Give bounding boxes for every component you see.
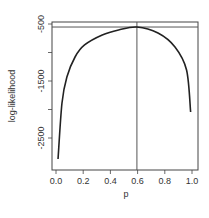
x-tick-label: 0.4 <box>104 176 117 186</box>
loglik-curve <box>58 27 191 159</box>
y-axis: -500-1500-2500 <box>36 15 52 150</box>
y-tick-label: -1500 <box>36 69 46 92</box>
x-tick-label: 0.8 <box>159 176 172 186</box>
y-axis-title: log-likelihood <box>7 70 17 123</box>
x-tick-label: 0.2 <box>77 176 90 186</box>
log-likelihood-chart: 0.00.20.40.60.81.0 -500-1500-2500 p log-… <box>0 0 209 218</box>
y-tick-label: -2500 <box>36 126 46 149</box>
x-axis-title: p <box>123 189 128 199</box>
x-tick-label: 0.0 <box>50 176 63 186</box>
x-axis: 0.00.20.40.60.81.0 <box>50 170 199 186</box>
y-tick-label: -500 <box>36 15 46 33</box>
x-tick-label: 0.6 <box>131 176 144 186</box>
plot-box <box>52 22 198 170</box>
x-tick-label: 1.0 <box>186 176 199 186</box>
